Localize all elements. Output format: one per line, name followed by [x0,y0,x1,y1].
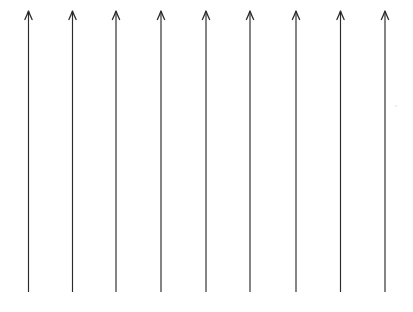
arrow-field-svg [0,0,413,312]
diagram-canvas [0,0,413,312]
